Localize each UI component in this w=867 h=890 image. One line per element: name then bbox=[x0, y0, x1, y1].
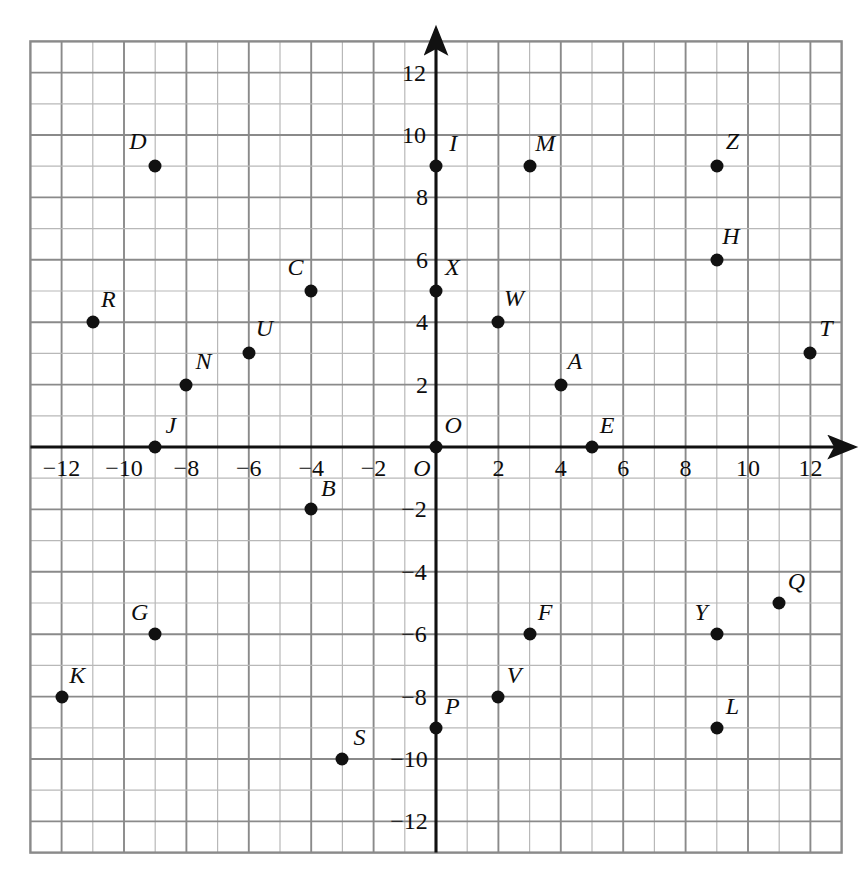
point-label-c: C bbox=[288, 255, 304, 279]
plot-point-e[interactable] bbox=[586, 441, 599, 454]
plot-point-l[interactable] bbox=[710, 721, 723, 734]
plot-point-z[interactable] bbox=[710, 160, 723, 173]
point-label-g: G bbox=[131, 600, 148, 624]
point-label-i: I bbox=[449, 131, 457, 155]
plot-point-p[interactable] bbox=[430, 721, 443, 734]
point-label-b: B bbox=[321, 476, 336, 500]
point-label-m: M bbox=[535, 131, 555, 155]
point-label-f: F bbox=[538, 600, 553, 624]
point-label-v: V bbox=[507, 663, 522, 687]
point-label-t: T bbox=[819, 316, 832, 340]
x-axis-tick-label: −2 bbox=[361, 456, 387, 480]
point-label-d: D bbox=[129, 129, 146, 153]
plot-point-m[interactable] bbox=[523, 160, 536, 173]
coordinate-plane-figure: −12−10−8−6−4−22468101212108642−2−4−6−8−1… bbox=[0, 0, 867, 890]
point-label-x: X bbox=[445, 255, 460, 279]
y-axis-tick-label: 6 bbox=[416, 248, 428, 272]
point-label-l: L bbox=[726, 694, 739, 718]
y-axis-tick-label: −6 bbox=[401, 622, 427, 646]
plot-point-a[interactable] bbox=[554, 378, 567, 391]
y-axis-tick-label: 12 bbox=[402, 61, 426, 85]
point-label-w: W bbox=[504, 286, 524, 310]
plot-point-v[interactable] bbox=[492, 690, 505, 703]
plot-point-d[interactable] bbox=[149, 160, 162, 173]
y-axis-tick-label: 8 bbox=[416, 185, 428, 209]
plot-point-t[interactable] bbox=[804, 347, 817, 360]
plot-point-x[interactable] bbox=[430, 285, 443, 298]
plot-point-r[interactable] bbox=[86, 316, 99, 329]
point-label-q: Q bbox=[788, 569, 805, 593]
point-label-r: R bbox=[101, 287, 116, 311]
point-label-y: Y bbox=[695, 600, 708, 624]
point-label-j: J bbox=[165, 413, 176, 437]
x-axis-tick-label: −12 bbox=[43, 456, 81, 480]
y-axis-tick-label: −10 bbox=[390, 747, 428, 771]
plot-point-w[interactable] bbox=[492, 316, 505, 329]
plot-point-g[interactable] bbox=[149, 628, 162, 641]
y-axis-tick-label: 10 bbox=[402, 123, 426, 147]
plot-point-k[interactable] bbox=[55, 690, 68, 703]
point-label-k: K bbox=[69, 663, 85, 687]
x-axis-tick-label: 10 bbox=[736, 456, 760, 480]
plot-point-n[interactable] bbox=[180, 378, 193, 391]
point-label-z: Z bbox=[726, 129, 739, 153]
plot-point-h[interactable] bbox=[710, 253, 723, 266]
plot-point-b[interactable] bbox=[305, 503, 318, 516]
point-label-e: E bbox=[600, 413, 615, 437]
y-axis-tick-label: −8 bbox=[401, 685, 427, 709]
x-axis-tick-label: −6 bbox=[236, 456, 262, 480]
y-axis-tick-label: −2 bbox=[401, 497, 427, 521]
x-axis-tick-label: 8 bbox=[680, 456, 692, 480]
plot-point-s[interactable] bbox=[336, 753, 349, 766]
x-axis-tick-label: 4 bbox=[555, 456, 567, 480]
plot-point-c[interactable] bbox=[305, 285, 318, 298]
plot-point-u[interactable] bbox=[242, 347, 255, 360]
y-axis-tick-label: −12 bbox=[390, 809, 428, 833]
plot-point-j[interactable] bbox=[149, 441, 162, 454]
x-axis-tick-label: −8 bbox=[174, 456, 200, 480]
x-axis-tick-label: 12 bbox=[798, 456, 822, 480]
point-label-a: A bbox=[567, 349, 582, 373]
point-label-n: N bbox=[196, 349, 212, 373]
point-label-o: O bbox=[444, 413, 461, 437]
y-axis-tick-label: 2 bbox=[416, 373, 428, 397]
point-label-u: U bbox=[256, 316, 273, 340]
origin-label: O bbox=[413, 456, 430, 480]
point-label-p: P bbox=[445, 694, 460, 718]
point-label-s: S bbox=[354, 725, 366, 749]
x-axis-tick-label: 2 bbox=[492, 456, 504, 480]
plot-point-o[interactable] bbox=[430, 441, 443, 454]
x-axis-tick-label: 6 bbox=[617, 456, 629, 480]
plot-point-i[interactable] bbox=[430, 160, 443, 173]
y-axis-tick-label: −4 bbox=[401, 560, 427, 584]
plot-point-y[interactable] bbox=[710, 628, 723, 641]
x-axis-tick-label: −10 bbox=[105, 456, 143, 480]
point-label-h: H bbox=[722, 224, 739, 248]
y-axis-tick-label: 4 bbox=[416, 310, 428, 334]
plot-point-q[interactable] bbox=[773, 597, 786, 610]
plot-point-f[interactable] bbox=[523, 628, 536, 641]
